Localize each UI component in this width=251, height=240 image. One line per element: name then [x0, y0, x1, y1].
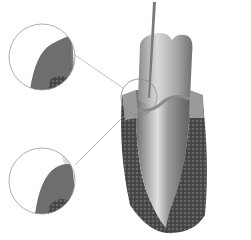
tooth-crown: [138, 33, 193, 104]
tooth: [121, 2, 207, 233]
gingiva-right: [190, 90, 204, 118]
upper-magnified-view: [9, 10, 112, 100]
lower-magnified-view: [9, 135, 118, 225]
connector-line-lower: [75, 112, 128, 165]
dental-illustration: [0, 0, 251, 240]
connector-line-upper: [75, 55, 123, 88]
